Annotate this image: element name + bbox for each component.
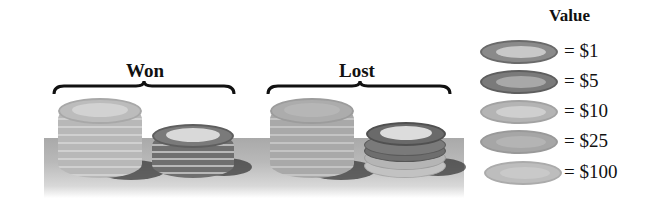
legend-label: = $1 [564, 40, 598, 62]
chip-icon-25-dollar [480, 130, 558, 154]
group-label-won: Won [100, 60, 190, 82]
legend-item-10: = $10 [480, 100, 660, 126]
group-label-lost: Lost [312, 60, 402, 82]
brace-won [52, 80, 236, 96]
legend-item-1: = $1 [480, 40, 660, 66]
legend-label: = $5 [564, 70, 598, 92]
legend-item-25: = $25 [480, 130, 660, 156]
chip-icon-1-dollar [480, 40, 558, 64]
legend-title: Value [549, 6, 590, 26]
legend-label: = $25 [564, 130, 608, 152]
chip-icon-100-dollar [484, 161, 562, 185]
legend-item-100: = $100 [480, 161, 660, 187]
chip-icon-10-dollar [480, 100, 558, 124]
legend-item-5: = $5 [480, 70, 660, 96]
legend-label: = $10 [564, 100, 608, 122]
chip-icon-5-dollar [480, 70, 558, 94]
legend-label: = $100 [564, 161, 617, 183]
brace-lost [266, 80, 452, 96]
